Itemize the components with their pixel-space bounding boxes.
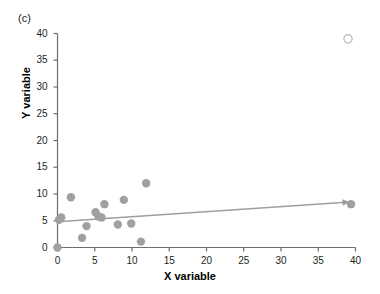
data-point-marker <box>347 200 355 208</box>
data-points <box>53 35 355 252</box>
data-point-marker <box>114 220 122 228</box>
y-tick-label: 15 <box>26 161 48 172</box>
data-point-marker <box>67 193 75 201</box>
outlier-marker <box>344 35 352 43</box>
y-tick-label: 10 <box>26 188 48 199</box>
data-point-marker <box>142 179 150 187</box>
x-tick-label: 0 <box>47 255 69 266</box>
x-tick-label: 35 <box>307 255 329 266</box>
x-tick-label: 5 <box>84 255 106 266</box>
data-point-marker <box>82 222 90 230</box>
data-point-marker <box>127 219 135 227</box>
plot-canvas <box>0 0 380 294</box>
y-axis-title-wrap: Y variable <box>16 38 34 148</box>
x-tick-label: 10 <box>121 255 143 266</box>
data-point-marker <box>78 234 86 242</box>
y-tick-label: 0 <box>26 242 48 253</box>
x-axis-title: X variable <box>0 270 380 282</box>
x-tick-label: 30 <box>270 255 292 266</box>
x-tick-label: 15 <box>158 255 180 266</box>
data-point-marker <box>97 213 105 221</box>
x-tick-label: 20 <box>196 255 218 266</box>
data-point-marker <box>57 213 65 221</box>
x-tick-label: 25 <box>233 255 255 266</box>
data-point-marker <box>100 200 108 208</box>
scatter-plot-figure: (c) 05101520253035400510152025303540 Y v… <box>0 0 380 294</box>
data-point-marker <box>53 243 61 251</box>
y-tick-label: 5 <box>26 215 48 226</box>
y-tick-label: 40 <box>26 28 48 39</box>
data-point-marker <box>137 237 145 245</box>
x-tick-label: 40 <box>345 255 367 266</box>
y-axis-title: Y variable <box>20 67 32 119</box>
data-point-marker <box>120 196 128 204</box>
